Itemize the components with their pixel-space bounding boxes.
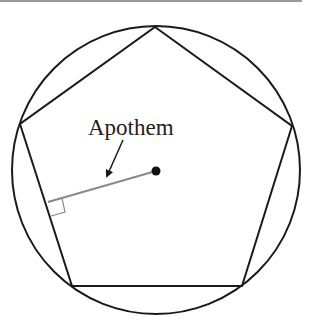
apothem-line: [48, 171, 156, 202]
arrow-icon: [107, 140, 123, 176]
apothem-label: Apothem: [88, 115, 174, 140]
pentagon: [20, 27, 292, 286]
pentagon-diagram: Apothem: [0, 0, 312, 321]
right-angle-marker: [48, 198, 65, 216]
center-point: [152, 167, 161, 176]
